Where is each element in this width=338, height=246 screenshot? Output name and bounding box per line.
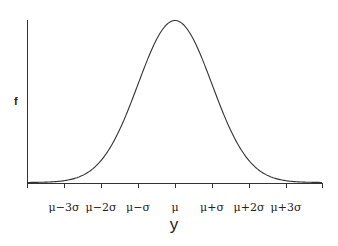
x-tick-label: μ+3σ [271,201,302,214]
x-tick-label: μ [171,201,178,214]
axes [27,20,323,188]
x-tick-label: μ−3σ [49,201,80,214]
x-tick-label: μ+σ [200,201,224,214]
x-tick-label: μ−σ [126,201,150,214]
x-tick-label: μ−2σ [86,201,117,214]
density-curve [27,21,322,183]
normal-distribution-chart: μ−3σμ−2σμ−σμμ+σμ+2σμ+3σ f y [0,0,338,246]
y-axis-label: f [14,95,18,107]
x-axis-label: y [170,215,179,234]
x-tick-label: μ+2σ [234,201,265,214]
x-tick-labels: μ−3σμ−2σμ−σμμ+σμ+2σμ+3σ [49,201,302,214]
